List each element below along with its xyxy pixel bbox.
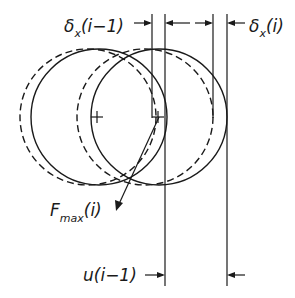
force-arrow-icon — [115, 117, 159, 211]
right-center-crosshair-icon — [152, 111, 164, 123]
delta-prev-dimension-arrows — [134, 20, 185, 26]
delta-curr-label: δx(i) — [249, 16, 284, 40]
previous-position-dashed-circle — [20, 49, 156, 185]
force-label: Fmax(i) — [50, 200, 102, 225]
delta-prev-label: δx(i−1) — [64, 16, 124, 40]
left-center-crosshair-icon — [91, 111, 103, 123]
u-prev-dimension-arrows — [145, 272, 245, 278]
circle-displacement-diagram: δx(i−1) δx(i) Fmax(i) u(i−1) — [0, 0, 295, 298]
delta-curr-dimension-arrows — [185, 20, 245, 26]
displacement-label: u(i−1) — [83, 265, 137, 285]
